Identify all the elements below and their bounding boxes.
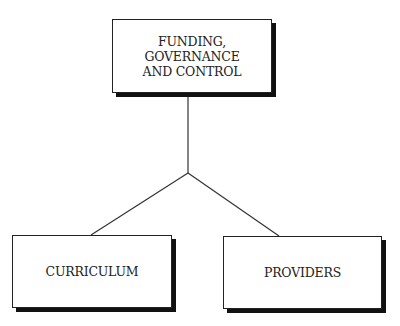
child-node-curriculum: CURRICULUM bbox=[12, 235, 172, 308]
left-branch-line bbox=[91, 173, 188, 235]
root-node-funding: FUNDING, GOVERNANCE AND CONTROL bbox=[112, 19, 272, 93]
root-node-label: FUNDING, GOVERNANCE AND CONTROL bbox=[143, 34, 242, 79]
providers-label: PROVIDERS bbox=[264, 265, 341, 280]
root-label-line-2: GOVERNANCE bbox=[143, 49, 242, 64]
child-node-providers: PROVIDERS bbox=[223, 236, 382, 309]
right-branch-line bbox=[188, 173, 279, 236]
curriculum-label: CURRICULUM bbox=[46, 264, 139, 279]
root-label-line-1: FUNDING, bbox=[143, 34, 242, 49]
root-label-line-3: AND CONTROL bbox=[143, 64, 242, 79]
